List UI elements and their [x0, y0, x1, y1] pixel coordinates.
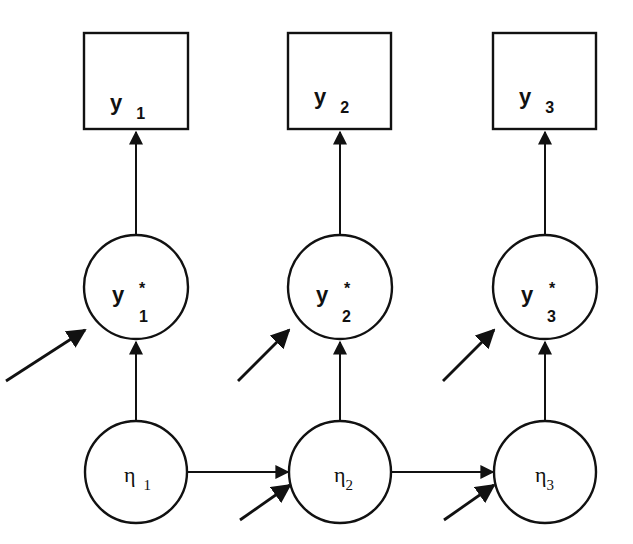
- disturbance-arrow-ystar1: [6, 330, 85, 381]
- latent-factor-node-eta1: η1: [85, 421, 187, 523]
- node-subscript: 2: [342, 308, 351, 325]
- node-subscript: 1: [144, 477, 152, 493]
- node-label: η: [535, 462, 547, 487]
- node-subscript: 2: [340, 99, 349, 116]
- node-subscript: 1: [139, 308, 148, 325]
- node-superscript: *: [344, 280, 351, 297]
- latent-response-node-ystar1: y * 1: [84, 235, 188, 339]
- disturbance-arrow-eta2: [240, 485, 290, 520]
- node-subscript: 3: [545, 99, 554, 116]
- latent-response-node-ystar2: y * 2: [288, 235, 392, 339]
- observed-node-y1: y1: [84, 33, 188, 129]
- node-subscript: 3: [547, 308, 556, 325]
- latent-factor-node-eta2: η2: [289, 421, 391, 523]
- disturbance-arrow-ystar3: [443, 330, 494, 381]
- latent-factor-node-eta3: η3: [494, 421, 596, 523]
- node-label: y: [521, 282, 534, 307]
- node-label: y: [519, 84, 532, 109]
- node-label: η: [124, 462, 136, 487]
- latent-response-node-ystar3: y * 3: [493, 235, 597, 339]
- node-subscript: 2: [346, 477, 354, 493]
- node-label: y: [112, 282, 125, 307]
- path-diagram: y1 y2 y3 y * 1 y * 2 y * 3 η1 η2 η3: [0, 0, 633, 544]
- node-label: y: [110, 90, 123, 115]
- node-superscript: *: [139, 280, 146, 297]
- disturbance-arrow-eta3: [444, 485, 494, 520]
- node-label: η: [334, 462, 346, 487]
- disturbance-arrow-ystar2: [238, 330, 289, 381]
- node-label: y: [314, 84, 327, 109]
- node-label: y: [316, 282, 329, 307]
- node-superscript: *: [549, 280, 556, 297]
- node-subscript: 3: [547, 477, 555, 493]
- observed-node-y2: y2: [288, 33, 391, 129]
- observed-node-y3: y3: [493, 33, 596, 129]
- node-subscript: 1: [136, 105, 145, 122]
